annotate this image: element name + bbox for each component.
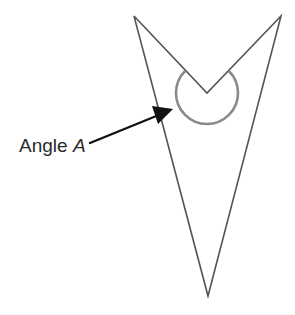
pointer-arrow bbox=[90, 106, 173, 143]
concave-quadrilateral bbox=[134, 16, 281, 296]
reflex-angle-arc bbox=[176, 71, 238, 124]
angle-label-variable: A bbox=[72, 135, 86, 156]
arrow-shaft bbox=[90, 115, 160, 144]
angle-label-prefix: Angle bbox=[19, 135, 73, 156]
angle-diagram: Angle A bbox=[0, 0, 295, 315]
angle-label: Angle A bbox=[19, 135, 86, 156]
